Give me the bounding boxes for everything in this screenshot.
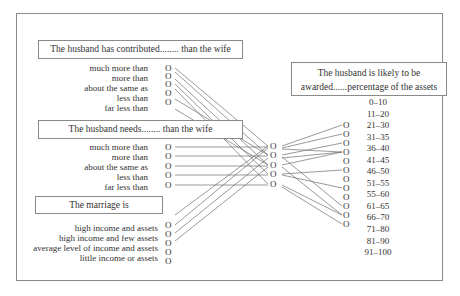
- question-prompt: The marriage is: [69, 200, 129, 210]
- question-box-needs: The husband needs........ than the wife: [38, 120, 243, 139]
- input-node: O: [165, 256, 172, 266]
- question-prompt: The husband has contributed........ than…: [50, 44, 230, 54]
- input-node: O: [165, 180, 172, 190]
- input-node: O: [165, 151, 172, 161]
- question-box-contributed: The husband has contributed........ than…: [38, 40, 243, 59]
- hidden-node: O: [270, 150, 277, 160]
- question-prompt: The husband needs........ than the wife: [69, 124, 213, 134]
- hidden-node: O: [270, 179, 277, 189]
- question-box-marriage: The marriage is: [35, 196, 163, 214]
- hidden-node: O: [270, 169, 277, 179]
- output-prompt-line1: The husband is likely to be: [292, 66, 446, 80]
- output-node: O: [343, 219, 350, 229]
- input-node: O: [165, 97, 172, 107]
- output-box: The husband is likely to be awarded.....…: [291, 62, 447, 96]
- input-node: O: [165, 170, 172, 180]
- output-prompt-line2: awarded......percentage of the assets: [292, 80, 446, 94]
